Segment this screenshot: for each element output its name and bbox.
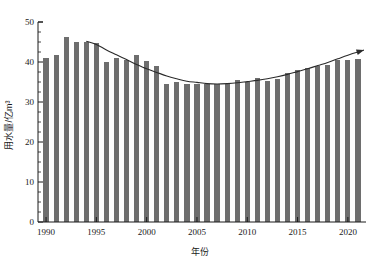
bar-2015 — [295, 70, 300, 222]
bar-2016 — [305, 68, 310, 222]
bar-2013 — [275, 79, 280, 222]
x-tick-label-2005: 2005 — [188, 227, 207, 237]
bar-2009 — [235, 80, 240, 222]
y-tick-label-30: 30 — [25, 97, 35, 107]
x-axis-title: 年份 — [191, 246, 209, 257]
bar-1993 — [74, 42, 79, 222]
y-tick-label-10: 10 — [25, 177, 35, 187]
bar-2001 — [154, 66, 159, 222]
bar-2019 — [335, 60, 340, 222]
bar-2002 — [164, 84, 169, 222]
x-tick-label-1995: 1995 — [87, 227, 106, 237]
water-usage-bar-chart: 010203040501990199520002005201020152020 … — [0, 0, 376, 274]
bar-2018 — [325, 65, 330, 222]
bar-2017 — [315, 66, 320, 222]
x-tick-label-2010: 2010 — [238, 227, 257, 237]
bar-2021 — [355, 59, 360, 222]
y-tick-label-0: 0 — [30, 217, 35, 227]
bar-2004 — [184, 84, 189, 222]
bar-1995 — [94, 43, 99, 222]
bar-2020 — [345, 60, 350, 222]
bar-2012 — [265, 81, 270, 222]
y-tick-label-40: 40 — [25, 57, 35, 67]
bar-1998 — [124, 60, 129, 222]
bar-2006 — [204, 84, 209, 222]
bars-group — [43, 37, 360, 222]
bar-2008 — [225, 84, 230, 222]
x-tick-label-1990: 1990 — [37, 227, 56, 237]
bar-2007 — [214, 84, 219, 222]
y-tick-label-50: 50 — [25, 17, 35, 27]
chart-canvas: 010203040501990199520002005201020152020 … — [0, 0, 376, 274]
y-tick-label-20: 20 — [25, 137, 35, 147]
bar-2010 — [245, 82, 250, 222]
bar-1992 — [64, 37, 69, 222]
bar-1990 — [43, 58, 48, 222]
bar-2011 — [255, 78, 260, 222]
bar-2003 — [174, 82, 179, 222]
bar-1994 — [84, 42, 89, 222]
bar-1999 — [134, 55, 139, 222]
x-tick-label-2015: 2015 — [289, 227, 308, 237]
y-axis-title: 用水量/亿m³ — [3, 101, 14, 150]
bar-2014 — [285, 73, 290, 222]
x-tick-label-2020: 2020 — [339, 227, 358, 237]
trend-arrowhead — [356, 50, 364, 56]
x-tick-label-2000: 2000 — [138, 227, 157, 237]
bar-1991 — [54, 55, 59, 222]
bar-2005 — [194, 84, 199, 222]
bar-2000 — [144, 61, 149, 222]
bar-1997 — [114, 58, 119, 222]
bar-1996 — [104, 62, 109, 222]
